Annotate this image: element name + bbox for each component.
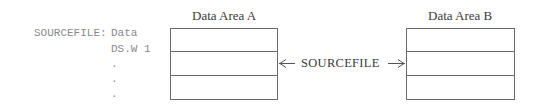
data-area-b-title: Data Area B — [428, 8, 492, 24]
code-label: SOURCEFILE: — [34, 27, 107, 40]
data-area-a-row — [171, 76, 277, 99]
code-ellipsis-2: . — [111, 73, 118, 86]
arrow-left-icon — [279, 63, 295, 64]
code-ellipsis-1: . — [111, 58, 118, 71]
data-area-b-row — [407, 76, 514, 99]
data-area-a — [170, 28, 278, 100]
diagram: SOURCEFILE: Data DS.W 1 . . . Data Area … — [0, 0, 542, 110]
data-area-a-row — [171, 52, 277, 75]
data-area-b-row — [407, 52, 514, 75]
pointer-label: SOURCEFILE — [301, 56, 380, 71]
data-area-a-row — [171, 29, 277, 52]
arrow-right-icon — [388, 63, 405, 64]
code-line-2: DS.W 1 — [111, 43, 151, 56]
data-area-b — [406, 28, 515, 100]
code-line-1: Data — [111, 27, 137, 40]
code-ellipsis-3: . — [111, 88, 118, 101]
data-area-b-row — [407, 29, 514, 52]
data-area-a-title: Data Area A — [192, 8, 256, 24]
